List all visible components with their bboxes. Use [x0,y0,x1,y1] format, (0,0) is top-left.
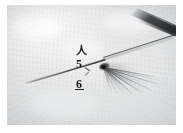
junction-knot-core [101,65,106,69]
needle-highlight [25,59,102,82]
filament-halo [103,36,174,61]
photograph: 人 5 6 [7,5,176,125]
instrument-tip [134,7,176,37]
figure-root: 人 5 6 [0,0,183,133]
filament-line [103,34,176,58]
annotation-glyph-person: 人 [76,46,87,57]
annotation-six-underline [75,89,84,90]
annotation-number-five: 5 [76,58,82,70]
fibre-bundle [103,67,173,125]
figure-alt-text [0,0,1,1]
